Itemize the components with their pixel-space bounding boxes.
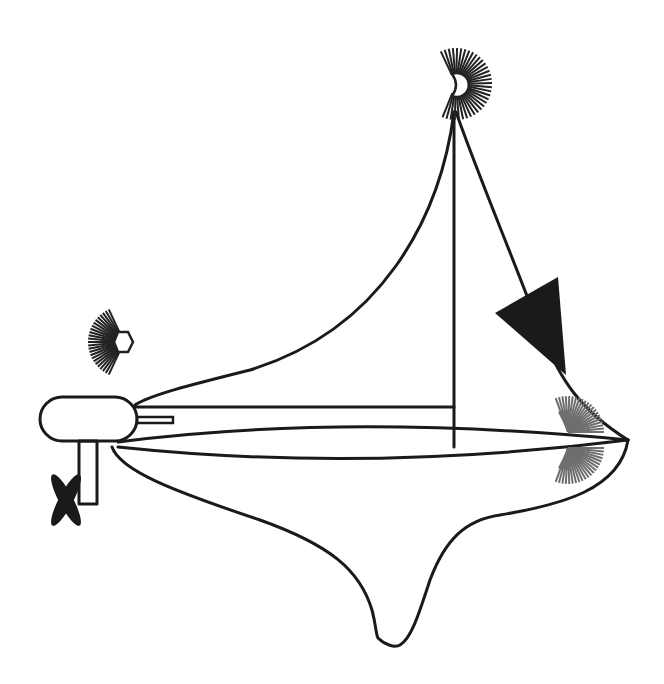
masthead-light: [441, 48, 492, 120]
pennant: [495, 277, 566, 375]
mainsail: [135, 112, 454, 405]
sidelight-lower: [556, 448, 604, 484]
sailboat-diagram: [0, 0, 664, 684]
hull: [112, 427, 628, 646]
forestay: [456, 112, 628, 440]
stern-light: [88, 309, 133, 374]
